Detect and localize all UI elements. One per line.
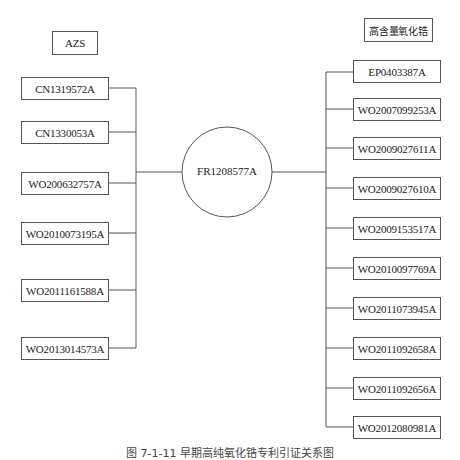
right-group-title: 高含量氧化锆	[364, 18, 433, 42]
right-patent-node: WO2011092656A	[353, 377, 441, 400]
right-patent-node: WO2010097769A	[353, 257, 441, 280]
right-patent-node: WO2012080981A	[353, 416, 441, 439]
left-group-title: AZS	[52, 31, 98, 55]
left-patent-node: WO200632757A	[21, 172, 109, 195]
figure-caption: 图 7-1-11 早期高纯氧化锆专利引证关系图	[0, 444, 460, 460]
right-patent-node: WO2009027611A	[353, 137, 441, 160]
right-patent-node: WO2011092658A	[353, 337, 441, 360]
left-patent-node: WO2013014573A	[21, 337, 109, 360]
left-patent-node: CN1319572A	[21, 77, 109, 100]
left-patent-node: CN1330053A	[21, 121, 109, 144]
center-node-label: FR1208577A	[182, 165, 272, 177]
right-patent-node: WO2009153517A	[353, 217, 441, 240]
right-patent-node: WO2007099253A	[353, 98, 441, 121]
left-patent-node: WO2010073195A	[21, 222, 109, 245]
right-patent-node: WO2009027610A	[353, 177, 441, 200]
right-patent-node: WO2011073945A	[353, 297, 441, 320]
right-patent-node: EP0403387A	[353, 60, 441, 83]
left-patent-node: WO2011161588A	[21, 279, 109, 302]
